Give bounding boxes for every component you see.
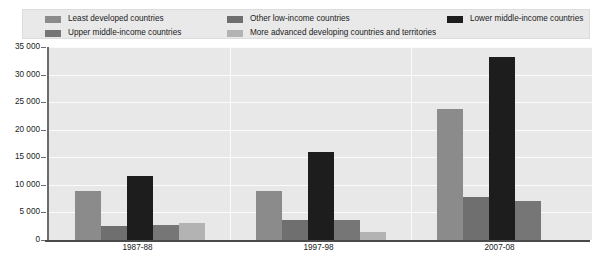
legend-label: Other low-income countries	[250, 14, 350, 24]
y-axis-tick-label: 0	[0, 236, 40, 244]
legend-swatch-icon	[45, 30, 61, 37]
legend-swatch-icon	[447, 16, 463, 23]
legend-swatch-icon	[227, 16, 243, 23]
bar	[489, 57, 515, 240]
bar	[463, 197, 489, 240]
bar	[101, 226, 127, 240]
gridline	[49, 47, 592, 48]
group-separator	[411, 47, 412, 240]
legend-item-more-advanced-developing-countries: More advanced developing countries and t…	[227, 27, 436, 39]
y-axis-tick-label: 35 000	[0, 43, 40, 51]
y-axis-tick	[41, 185, 46, 186]
bar	[334, 220, 360, 240]
legend-item-lower-middle-income-countries: Lower middle-income countries	[447, 13, 583, 25]
legend-item-upper-middle-income-countries: Upper middle-income countries	[45, 27, 181, 39]
bar	[437, 109, 463, 240]
y-axis-tick-label: 20 000	[0, 126, 40, 134]
bar	[308, 152, 334, 240]
y-axis-tick	[41, 212, 46, 213]
bar-chart: Least developed countries Upper middle-i…	[0, 0, 598, 254]
chart-legend: Least developed countries Upper middle-i…	[22, 9, 590, 39]
legend-swatch-icon	[227, 30, 243, 37]
legend-item-other-low-income-countries: Other low-income countries	[227, 13, 436, 25]
plot-area	[47, 47, 592, 240]
y-axis-tick-label: 5 000	[0, 208, 40, 216]
y-axis-tick	[41, 47, 46, 48]
bar	[282, 220, 308, 240]
legend-item-least-developed-countries: Least developed countries	[45, 13, 181, 25]
x-axis-tick-label: 1997-98	[279, 243, 359, 252]
bar	[360, 232, 386, 240]
x-axis-tick-label: 2007-08	[460, 243, 540, 252]
bar	[127, 176, 153, 240]
y-axis-tick-label: 30 000	[0, 71, 40, 79]
y-axis-tick	[41, 157, 46, 158]
y-axis-tick	[41, 102, 46, 103]
y-axis-tick-label: 25 000	[0, 98, 40, 106]
legend-column-1: Least developed countries Upper middle-i…	[45, 13, 181, 41]
bar	[75, 191, 101, 240]
bar	[153, 225, 179, 240]
y-axis-tick	[41, 130, 46, 131]
y-axis-tick	[41, 75, 46, 76]
legend-label: Upper middle-income countries	[68, 28, 181, 38]
legend-swatch-icon	[45, 16, 61, 23]
legend-label: Least developed countries	[68, 14, 164, 24]
legend-label: Lower middle-income countries	[470, 14, 583, 24]
y-axis-tick-label: 15 000	[0, 153, 40, 161]
bar	[515, 201, 541, 240]
bar	[179, 223, 205, 240]
x-axis-baseline	[45, 240, 590, 242]
x-axis-tick-label: 1987-88	[98, 243, 178, 252]
legend-column-2: Other low-income countries More advanced…	[227, 13, 436, 41]
y-axis-tick-label: 10 000	[0, 181, 40, 189]
legend-column-3: Lower middle-income countries	[447, 13, 583, 27]
legend-label: More advanced developing countries and t…	[250, 28, 436, 38]
group-separator	[230, 47, 231, 240]
bar	[256, 191, 282, 240]
